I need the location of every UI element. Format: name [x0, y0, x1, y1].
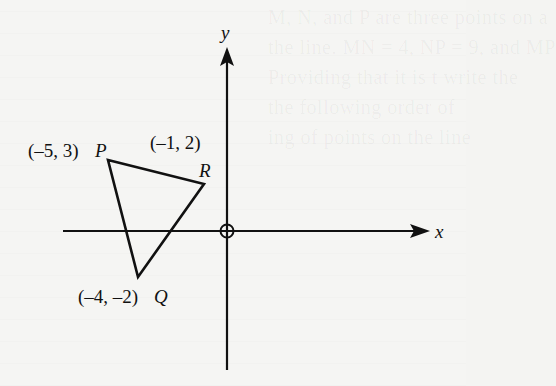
triangle-pqr: [108, 160, 204, 277]
point-q-coordinates: (–4, –2): [78, 286, 138, 308]
point-p-coordinates: (–5, 3): [28, 140, 79, 162]
y-axis: [220, 47, 234, 370]
point-q-name: Q: [154, 286, 168, 307]
point-r-name: R: [198, 160, 211, 181]
x-axis-label: x: [434, 221, 444, 242]
y-axis-label: y: [219, 22, 230, 43]
x-axis: [63, 224, 430, 238]
point-p-name: P: [94, 140, 107, 161]
point-r-coordinates: (–1, 2): [150, 132, 201, 154]
